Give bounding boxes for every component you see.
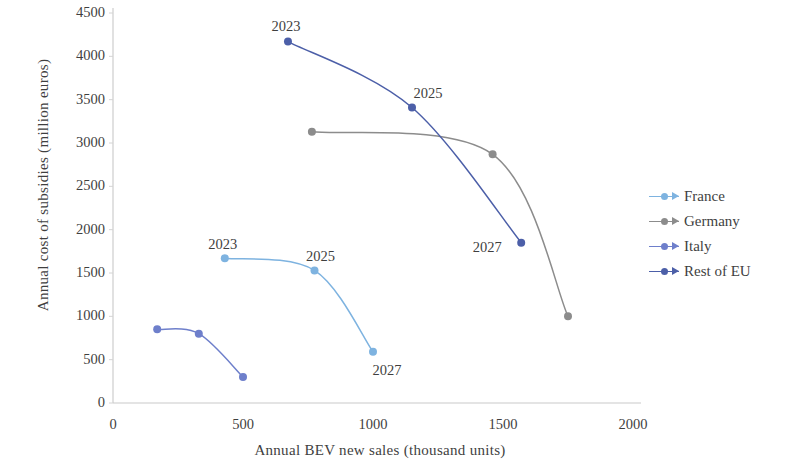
legend-item-rest-of-eu[interactable]: Rest of EU <box>648 259 787 284</box>
chart-legend: FranceGermanyItalyRest of EU <box>648 184 787 284</box>
point-year-label: 2023 <box>201 236 245 253</box>
point-year-label: 2023 <box>264 18 308 35</box>
series-germany <box>308 128 572 321</box>
legend-item-germany[interactable]: Germany <box>648 209 787 234</box>
data-point[interactable] <box>408 103 416 111</box>
legend-dot-icon <box>661 218 668 225</box>
series-rest-of-eu <box>284 38 525 247</box>
legend-marker-icon <box>648 190 680 204</box>
legend-item-italy[interactable]: Italy <box>648 234 787 259</box>
series-italy <box>153 325 247 381</box>
point-year-label: 2027 <box>365 362 409 379</box>
series-line <box>288 42 521 243</box>
legend-arrow-icon <box>672 267 679 275</box>
data-point[interactable] <box>195 330 203 338</box>
legend-arrow-icon <box>672 217 679 225</box>
legend-label: Rest of EU <box>684 263 751 280</box>
point-year-label: 2025 <box>406 85 450 102</box>
series-line <box>312 132 568 317</box>
data-point[interactable] <box>153 325 161 333</box>
legend-marker-icon <box>648 265 680 279</box>
legend-marker-icon <box>648 240 680 254</box>
point-year-label: 2027 <box>465 239 509 256</box>
data-point[interactable] <box>308 128 316 136</box>
data-point[interactable] <box>284 38 292 46</box>
legend-label: Germany <box>684 213 740 230</box>
legend-label: France <box>684 188 725 205</box>
series-line <box>225 258 373 352</box>
legend-arrow-icon <box>672 192 679 200</box>
data-point[interactable] <box>517 239 525 247</box>
legend-label: Italy <box>684 238 712 255</box>
data-point[interactable] <box>239 373 247 381</box>
legend-dot-icon <box>661 268 668 275</box>
legend-item-france[interactable]: France <box>648 184 787 209</box>
legend-marker-icon <box>648 215 680 229</box>
point-year-label: 2025 <box>299 248 343 265</box>
data-point[interactable] <box>221 254 229 262</box>
legend-dot-icon <box>661 193 668 200</box>
data-point[interactable] <box>564 312 572 320</box>
legend-dot-icon <box>661 243 668 250</box>
series-france <box>221 254 377 356</box>
legend-arrow-icon <box>672 242 679 250</box>
data-point[interactable] <box>489 150 497 158</box>
data-point[interactable] <box>311 266 319 274</box>
chart-figure: Annual cost of subsidies (million euros)… <box>0 0 787 469</box>
data-point[interactable] <box>369 348 377 356</box>
